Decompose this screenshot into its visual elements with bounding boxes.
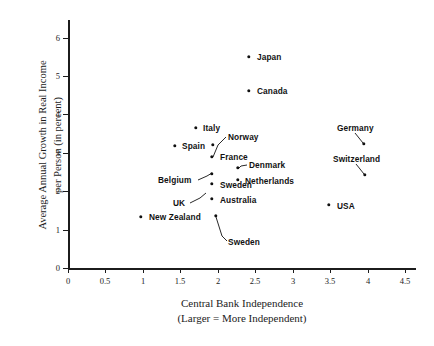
x-axis-title: Central Bank Independence (Larger = More… <box>68 296 416 325</box>
leader-path-switzerland <box>356 164 364 174</box>
point-label-usa: USA <box>337 201 355 211</box>
x-ticklabel-3-5: 3.5 <box>315 276 345 286</box>
x-tick-4-5 <box>405 268 406 273</box>
x-ticklabel-4-5: 4.5 <box>390 276 420 286</box>
x-ticklabel-4: 4 <box>353 276 383 286</box>
leader-path-sweden-lower <box>216 217 227 241</box>
x-tick-1-5 <box>180 268 181 273</box>
x-tick-3 <box>293 268 294 273</box>
x-tick-3-5 <box>330 268 331 273</box>
datapoint-belgium <box>210 172 213 175</box>
point-label-netherlands: Netherlands <box>245 176 294 186</box>
y-axis-title: Average Annual Growth in Real Income per… <box>35 20 65 270</box>
point-label-belgium: Belgium <box>158 175 191 185</box>
x-axis-line <box>68 268 416 270</box>
x-ticklabel-1: 1 <box>128 276 158 286</box>
point-label-france: France <box>220 152 248 162</box>
datapoint-france <box>210 155 213 158</box>
datapoint-italy <box>194 126 197 129</box>
datapoint-sweden-2 <box>214 214 217 217</box>
x-ticklabel-1-5: 1.5 <box>165 276 195 286</box>
point-label-norway: Norway <box>228 132 259 142</box>
datapoint-norway <box>211 143 214 146</box>
datapoint-spain <box>173 144 176 147</box>
y-axis-title-line1: Average Annual Growth in Real Income <box>35 20 50 270</box>
x-ticklabel-2-5: 2.5 <box>240 276 270 286</box>
y-axis-line <box>68 20 70 269</box>
x-ticklabel-3: 3 <box>278 276 308 286</box>
leader-path-uk <box>190 193 206 203</box>
y-axis-title-line2: per Person (in percent) <box>50 20 65 270</box>
point-label-denmark: Denmark <box>249 160 285 170</box>
point-label-japan: Japan <box>257 52 281 62</box>
point-label-australia: Australia <box>220 195 256 205</box>
point-label-switzerland: Switzerland <box>333 154 380 164</box>
datapoint-japan <box>247 55 250 58</box>
datapoint-australia <box>210 197 213 200</box>
leader-path-denmark <box>238 165 247 169</box>
datapoint-sweden <box>210 182 213 185</box>
x-tick-0-5 <box>105 268 106 273</box>
x-ticklabel-2: 2 <box>203 276 233 286</box>
leader-line-norway <box>0 0 434 346</box>
datapoint-usa <box>327 203 330 206</box>
leader-line-germany <box>0 0 434 346</box>
x-axis-title-line1: Central Bank Independence <box>68 296 416 311</box>
point-label-sweden-2: Sweden <box>228 237 260 247</box>
datapoint-new-zealand <box>139 215 142 218</box>
datapoint-denmark <box>236 166 239 169</box>
leader-line-sweden-lower <box>0 0 434 346</box>
point-label-italy: Italy <box>203 123 220 133</box>
scatter-plot-figure: 6 5 4 3 2 1 0 0 0.5 1 1.5 2 2.5 3 3.5 4 … <box>0 0 434 346</box>
point-label-uk: UK <box>173 198 185 208</box>
x-tick-4 <box>368 268 369 273</box>
datapoint-switzerland <box>363 173 366 176</box>
x-tick-0 <box>68 268 69 273</box>
point-label-sweden: Sweden <box>220 180 252 190</box>
x-ticklabel-0: 0 <box>53 276 83 286</box>
point-label-new-zealand: New Zealand <box>149 212 201 222</box>
leader-line-belgium <box>0 0 434 346</box>
leader-line-switzerland <box>0 0 434 346</box>
x-tick-1 <box>143 268 144 273</box>
point-label-germany: Germany <box>337 123 374 133</box>
leader-line-uk <box>0 0 434 346</box>
datapoint-canada <box>247 89 250 92</box>
x-ticklabel-0-5: 0.5 <box>90 276 120 286</box>
point-label-canada: Canada <box>257 86 288 96</box>
point-label-spain: Spain <box>182 141 205 151</box>
leader-path-germany <box>355 133 363 143</box>
x-tick-2 <box>218 268 219 273</box>
leader-line-denmark <box>0 0 434 346</box>
x-tick-2-5 <box>255 268 256 273</box>
datapoint-germany <box>362 142 365 145</box>
x-axis-title-line2: (Larger = More Independent) <box>68 311 416 326</box>
